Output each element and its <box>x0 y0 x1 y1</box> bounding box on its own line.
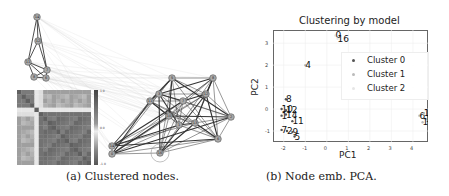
legend-label: Cluster 1 <box>367 69 405 79</box>
colorbar-tick: -1.0 <box>100 162 106 166</box>
svg-text:6: 6 <box>217 137 219 141</box>
svg-text:5: 5 <box>295 132 301 142</box>
legend-marker-icon <box>352 59 355 62</box>
legend-marker-icon <box>352 73 355 76</box>
svg-text:7: 7 <box>46 68 48 72</box>
svg-text:5: 5 <box>171 76 173 80</box>
heatmap-colorbar <box>94 90 98 165</box>
legend-entry-cluster-0: Cluster 0 <box>342 53 428 67</box>
x-tick-label: 3 <box>388 145 391 151</box>
legend-label: Cluster 2 <box>367 83 405 93</box>
svg-text:15: 15 <box>423 117 428 127</box>
colorbar-tick: 0.0 <box>100 126 105 130</box>
y-tick-label: -1 <box>265 128 270 134</box>
svg-text:16: 16 <box>158 151 162 155</box>
legend-marker-icon <box>352 87 355 90</box>
legend-entry-cluster-1: Cluster 1 <box>342 67 428 81</box>
x-tick-label: -1 <box>302 145 307 151</box>
caption-b: (b) Node emb. PCA. <box>266 170 377 183</box>
caption-a: (a) Clustered nodes. <box>66 170 179 183</box>
svg-text:8: 8 <box>33 75 35 79</box>
svg-text:12: 12 <box>36 39 40 43</box>
x-axis-label: PC1 <box>339 150 356 160</box>
svg-text:7: 7 <box>182 99 184 103</box>
figure-a: 14121178658311712101132614016 1.0 0.0 -1… <box>0 0 250 196</box>
x-tick-label: -2 <box>281 145 286 151</box>
x-tick-label: 0 <box>324 145 327 151</box>
figure-b: Clustering by model PC2 PC1 016481012114… <box>250 0 449 196</box>
svg-text:12: 12 <box>204 92 208 96</box>
svg-text:14: 14 <box>110 144 115 148</box>
y-tick-label: 0 <box>265 106 268 112</box>
y-tick-label: 1 <box>265 84 268 90</box>
svg-text:11: 11 <box>148 99 152 103</box>
legend-entry-cluster-2: Cluster 2 <box>342 81 428 95</box>
svg-text:16: 16 <box>338 34 350 44</box>
x-tick-label: 1 <box>345 145 348 151</box>
svg-text:13: 13 <box>193 121 197 125</box>
chart-title: Clustering by model <box>299 15 400 26</box>
svg-text:11: 11 <box>292 116 303 126</box>
svg-text:8: 8 <box>286 94 292 104</box>
x-tick-label: 2 <box>367 145 370 151</box>
similarity-heatmap <box>17 90 91 165</box>
svg-text:8: 8 <box>212 76 214 80</box>
svg-text:2: 2 <box>230 115 232 119</box>
y-axis-label: PC2 <box>250 78 260 95</box>
chart-legend: Cluster 0 Cluster 1 Cluster 2 <box>341 52 429 100</box>
svg-text:0: 0 <box>111 152 113 156</box>
svg-text:14: 14 <box>35 15 40 19</box>
y-tick-label: 3 <box>265 40 268 46</box>
svg-text:3: 3 <box>158 92 160 96</box>
x-tick-label: 4 <box>410 145 413 151</box>
svg-text:10: 10 <box>167 114 171 118</box>
svg-text:1: 1 <box>178 123 180 127</box>
svg-text:11: 11 <box>26 60 30 64</box>
svg-text:4: 4 <box>305 60 311 70</box>
colorbar-tick: 1.0 <box>100 89 105 93</box>
svg-text:6: 6 <box>45 76 47 80</box>
legend-label: Cluster 0 <box>367 55 405 65</box>
y-tick-label: 2 <box>265 62 268 68</box>
